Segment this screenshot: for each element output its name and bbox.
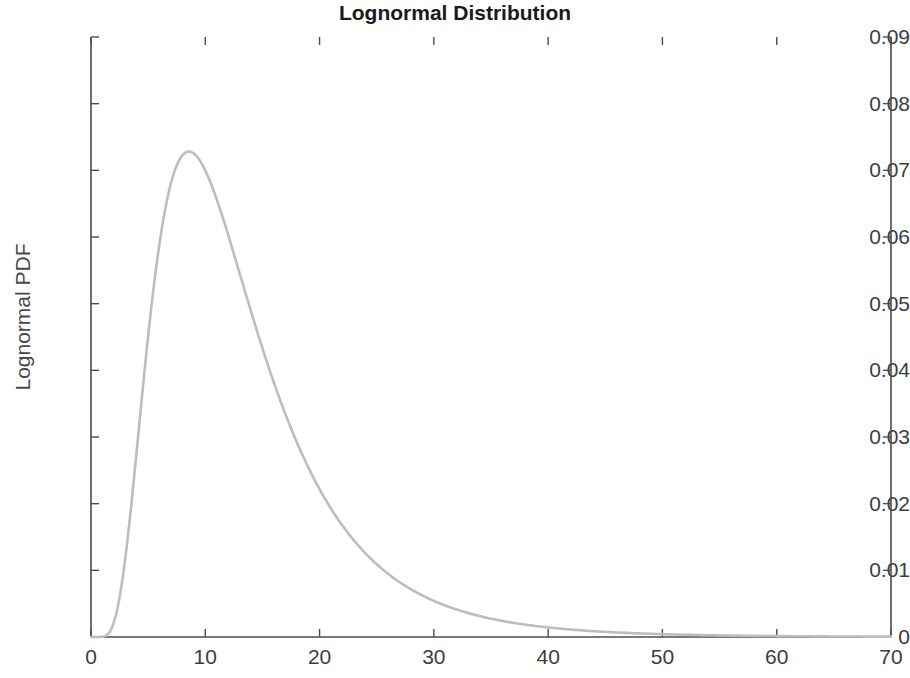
chart-figure: Lognormal Distribution Lognormal PDF 00.… (0, 0, 910, 678)
axis-ticks (91, 37, 891, 637)
plot-area (0, 0, 910, 678)
data-series-lognormal-pdf (91, 152, 891, 637)
axis-frame (91, 37, 891, 637)
